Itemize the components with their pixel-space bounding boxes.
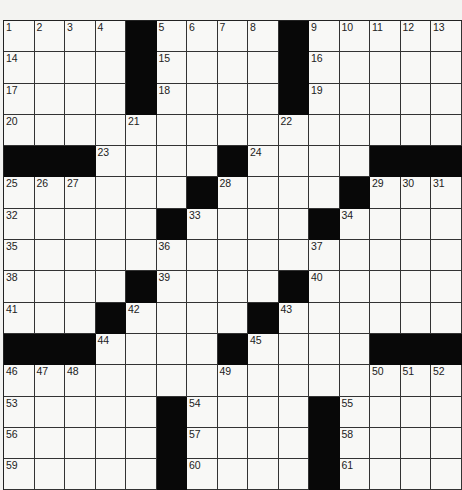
grid-cell[interactable] xyxy=(248,365,279,396)
grid-cell[interactable]: 9 xyxy=(309,21,340,52)
grid-cell[interactable]: 23 xyxy=(96,146,127,177)
grid-cell[interactable] xyxy=(218,271,249,302)
grid-cell[interactable]: 33 xyxy=(187,209,218,240)
grid-cell[interactable]: 37 xyxy=(309,240,340,271)
grid-cell[interactable] xyxy=(370,115,401,146)
grid-cell[interactable] xyxy=(96,209,127,240)
grid-cell[interactable] xyxy=(218,115,249,146)
grid-cell[interactable] xyxy=(65,397,96,428)
grid-cell[interactable] xyxy=(340,271,371,302)
grid-cell[interactable] xyxy=(279,334,310,365)
grid-cell[interactable] xyxy=(126,397,157,428)
grid-cell[interactable] xyxy=(370,84,401,115)
grid-cell[interactable]: 41 xyxy=(4,303,35,334)
grid-cell[interactable] xyxy=(431,271,462,302)
grid-cell[interactable]: 30 xyxy=(401,177,432,208)
grid-cell[interactable]: 10 xyxy=(340,21,371,52)
grid-cell[interactable] xyxy=(157,146,188,177)
grid-cell[interactable]: 27 xyxy=(65,177,96,208)
grid-cell[interactable] xyxy=(248,115,279,146)
grid-cell[interactable] xyxy=(126,146,157,177)
grid-cell[interactable] xyxy=(279,459,310,490)
grid-cell[interactable]: 15 xyxy=(157,52,188,83)
grid-cell[interactable] xyxy=(187,84,218,115)
grid-cell[interactable] xyxy=(309,177,340,208)
grid-cell[interactable] xyxy=(431,209,462,240)
grid-cell[interactable]: 6 xyxy=(187,21,218,52)
grid-cell[interactable] xyxy=(248,52,279,83)
grid-cell[interactable] xyxy=(370,303,401,334)
grid-cell[interactable] xyxy=(401,52,432,83)
grid-cell[interactable] xyxy=(248,428,279,459)
grid-cell[interactable] xyxy=(65,271,96,302)
grid-cell[interactable] xyxy=(370,271,401,302)
grid-cell[interactable] xyxy=(431,52,462,83)
grid-cell[interactable] xyxy=(401,303,432,334)
grid-cell[interactable]: 43 xyxy=(279,303,310,334)
grid-cell[interactable]: 60 xyxy=(187,459,218,490)
grid-cell[interactable] xyxy=(401,240,432,271)
grid-cell[interactable]: 16 xyxy=(309,52,340,83)
grid-cell[interactable] xyxy=(431,428,462,459)
grid-cell[interactable] xyxy=(340,52,371,83)
grid-cell[interactable]: 44 xyxy=(96,334,127,365)
grid-cell[interactable] xyxy=(96,428,127,459)
grid-cell[interactable] xyxy=(96,177,127,208)
grid-cell[interactable]: 40 xyxy=(309,271,340,302)
grid-cell[interactable] xyxy=(65,84,96,115)
grid-cell[interactable]: 50 xyxy=(370,365,401,396)
grid-cell[interactable] xyxy=(401,271,432,302)
grid-cell[interactable] xyxy=(309,146,340,177)
grid-cell[interactable] xyxy=(96,397,127,428)
grid-cell[interactable]: 45 xyxy=(248,334,279,365)
grid-cell[interactable]: 8 xyxy=(248,21,279,52)
grid-cell[interactable] xyxy=(279,209,310,240)
grid-cell[interactable]: 42 xyxy=(126,303,157,334)
grid-cell[interactable] xyxy=(35,115,66,146)
grid-cell[interactable] xyxy=(35,209,66,240)
grid-cell[interactable] xyxy=(126,459,157,490)
grid-cell[interactable] xyxy=(279,397,310,428)
grid-cell[interactable] xyxy=(35,271,66,302)
grid-cell[interactable] xyxy=(248,240,279,271)
grid-cell[interactable] xyxy=(309,115,340,146)
grid-cell[interactable]: 14 xyxy=(4,52,35,83)
grid-cell[interactable]: 56 xyxy=(4,428,35,459)
grid-cell[interactable]: 39 xyxy=(157,271,188,302)
grid-cell[interactable] xyxy=(35,397,66,428)
grid-cell[interactable] xyxy=(65,428,96,459)
grid-cell[interactable]: 3 xyxy=(65,21,96,52)
grid-cell[interactable]: 22 xyxy=(279,115,310,146)
grid-cell[interactable] xyxy=(218,240,249,271)
grid-cell[interactable] xyxy=(218,459,249,490)
grid-cell[interactable] xyxy=(65,115,96,146)
grid-cell[interactable]: 13 xyxy=(431,21,462,52)
grid-cell[interactable] xyxy=(370,459,401,490)
grid-cell[interactable] xyxy=(431,303,462,334)
grid-cell[interactable] xyxy=(126,428,157,459)
grid-cell[interactable]: 1 xyxy=(4,21,35,52)
grid-cell[interactable]: 26 xyxy=(35,177,66,208)
grid-cell[interactable]: 53 xyxy=(4,397,35,428)
grid-cell[interactable]: 61 xyxy=(340,459,371,490)
grid-cell[interactable]: 11 xyxy=(370,21,401,52)
grid-cell[interactable] xyxy=(187,303,218,334)
grid-cell[interactable] xyxy=(248,459,279,490)
grid-cell[interactable] xyxy=(309,334,340,365)
grid-cell[interactable] xyxy=(370,428,401,459)
grid-cell[interactable] xyxy=(96,52,127,83)
grid-cell[interactable]: 31 xyxy=(431,177,462,208)
grid-cell[interactable] xyxy=(187,115,218,146)
grid-cell[interactable] xyxy=(279,365,310,396)
grid-cell[interactable] xyxy=(157,177,188,208)
grid-cell[interactable]: 58 xyxy=(340,428,371,459)
grid-cell[interactable] xyxy=(218,303,249,334)
grid-cell[interactable]: 5 xyxy=(157,21,188,52)
grid-cell[interactable]: 51 xyxy=(401,365,432,396)
grid-cell[interactable] xyxy=(126,334,157,365)
grid-cell[interactable] xyxy=(248,209,279,240)
grid-cell[interactable]: 28 xyxy=(218,177,249,208)
grid-cell[interactable] xyxy=(65,459,96,490)
grid-cell[interactable] xyxy=(431,84,462,115)
grid-cell[interactable] xyxy=(126,177,157,208)
